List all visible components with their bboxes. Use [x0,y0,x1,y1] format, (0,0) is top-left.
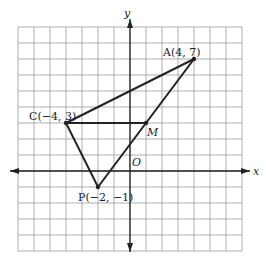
x-axis-left-arrow-icon [10,168,19,174]
point-label-a: A(4, 7) [162,46,201,59]
point-p-dot [96,185,100,189]
y-axis-up-arrow-icon [127,19,133,28]
coordinate-plane: x y O A(4, 7) C(−4, 3) P(−2, −1) M [0,0,266,264]
point-label-c: C(−4, 3) [29,110,76,123]
point-label-m: M [146,126,159,139]
point-label-p: P(−2, −1) [78,191,133,204]
x-axis-right-arrow-icon [241,168,250,174]
y-axis-label: y [123,7,131,20]
axes: x y O [10,7,260,252]
origin-label: O [132,156,141,169]
x-axis-label: x [253,165,260,178]
point-m-dot [144,121,148,125]
